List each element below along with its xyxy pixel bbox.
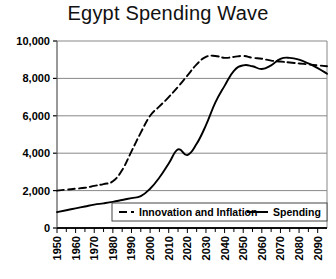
- x-axis-tick-label: 2060: [256, 236, 268, 260]
- x-axis-tick-label: 2050: [237, 236, 249, 260]
- x-axis-tick-label: 2090: [312, 236, 324, 260]
- x-axis-tick-label: 1970: [88, 236, 100, 260]
- y-axis-labels-group: 02,0004,0006,0008,00010,000: [16, 35, 50, 234]
- y-axis-tick-label: 8,000: [22, 72, 50, 84]
- x-axis-tick-label: 2000: [144, 236, 156, 260]
- y-axis-tick-label: 6,000: [22, 110, 50, 122]
- y-axis-tick-label: 4,000: [22, 147, 50, 159]
- x-axis-tick-label: 1950: [51, 236, 63, 260]
- x-axis-tick-label: 1960: [70, 236, 82, 260]
- y-axis-tick-label: 10,000: [16, 35, 50, 47]
- chart-plot-svg: 02,0004,0006,0008,00010,000 195019601970…: [0, 0, 336, 279]
- x-axis-tick-label: 1980: [107, 236, 119, 260]
- x-axis-tick-label: 2030: [200, 236, 212, 260]
- x-axis-tick-label: 2070: [274, 236, 286, 260]
- chart-container: Egypt Spending Wave 02,0004,0006,0008,00…: [0, 0, 336, 279]
- x-axis-tick-label: 2010: [163, 236, 175, 260]
- chart-legend: Innovation and Inflation Spending: [112, 203, 327, 221]
- x-axis-tick-label: 2040: [219, 236, 231, 260]
- plot-background: [57, 41, 327, 228]
- x-axis-tick-label: 2020: [181, 236, 193, 260]
- x-axis-tick-label: 1990: [125, 236, 137, 260]
- x-axis-tick-label: 2080: [293, 236, 305, 260]
- y-axis-tick-label: 0: [44, 222, 50, 234]
- y-axis-tick-label: 2,000: [22, 185, 50, 197]
- x-minor-ticks-group: [57, 228, 318, 233]
- x-axis-labels-group: 1950196019701980199020002010202020302040…: [51, 236, 324, 260]
- legend-label-spending: Spending: [273, 206, 321, 218]
- legend-label-innovation: Innovation and Inflation: [139, 206, 257, 218]
